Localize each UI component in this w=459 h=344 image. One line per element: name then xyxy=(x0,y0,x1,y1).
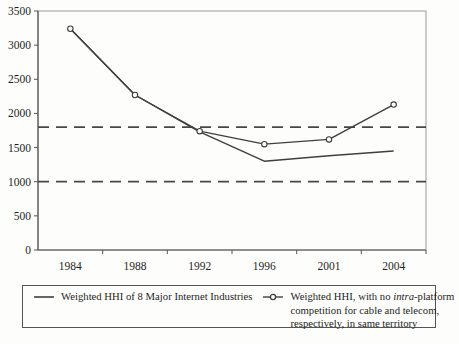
legend-label-italic-word: intra xyxy=(393,290,414,302)
y-tick-label: 3000 xyxy=(8,39,31,51)
circle-marker-line-swatch-icon xyxy=(262,293,284,301)
solid-line-swatch-icon xyxy=(33,293,55,301)
series-1-marker xyxy=(262,141,267,146)
series-1-marker xyxy=(326,137,331,142)
y-tick-label: 1500 xyxy=(8,142,31,154)
plot-border xyxy=(38,11,426,250)
y-tick-label: 500 xyxy=(14,210,32,222)
y-tick-label: 1000 xyxy=(8,176,31,188)
y-tick-label: 0 xyxy=(25,244,31,256)
x-tick-label: 1984 xyxy=(59,260,82,272)
series-line-0 xyxy=(70,29,393,161)
y-tick-label: 3500 xyxy=(8,5,31,17)
y-tick-label: 2000 xyxy=(8,107,31,119)
series-1-marker xyxy=(132,92,137,97)
legend-label-no-intra-platform: Weighted HHI, with no intra-platform com… xyxy=(290,290,459,331)
x-tick-label: 1992 xyxy=(188,260,211,272)
legend-entry-weighted-hhi: Weighted HHI of 8 Major Internet Industr… xyxy=(33,290,262,304)
hhi-line-chart: 0500100015002000250030003500198419881992… xyxy=(0,0,448,284)
x-tick-label: 2004 xyxy=(382,260,405,272)
x-tick-label: 2001 xyxy=(318,260,341,272)
legend-entry-no-intra-platform: Weighted HHI, with no intra-platform com… xyxy=(262,290,459,331)
series-1-marker xyxy=(68,26,73,31)
y-tick-label: 2500 xyxy=(8,73,31,85)
x-tick-label: 1996 xyxy=(253,260,276,272)
series-1-marker xyxy=(197,128,202,133)
series-1-marker xyxy=(391,102,396,107)
chart-legend: Weighted HHI of 8 Major Internet Industr… xyxy=(22,285,436,328)
x-tick-label: 1988 xyxy=(124,260,147,272)
legend-label-weighted-hhi: Weighted HHI of 8 Major Internet Industr… xyxy=(61,290,252,304)
legend-label-prefix: Weighted HHI, with no xyxy=(290,290,393,302)
